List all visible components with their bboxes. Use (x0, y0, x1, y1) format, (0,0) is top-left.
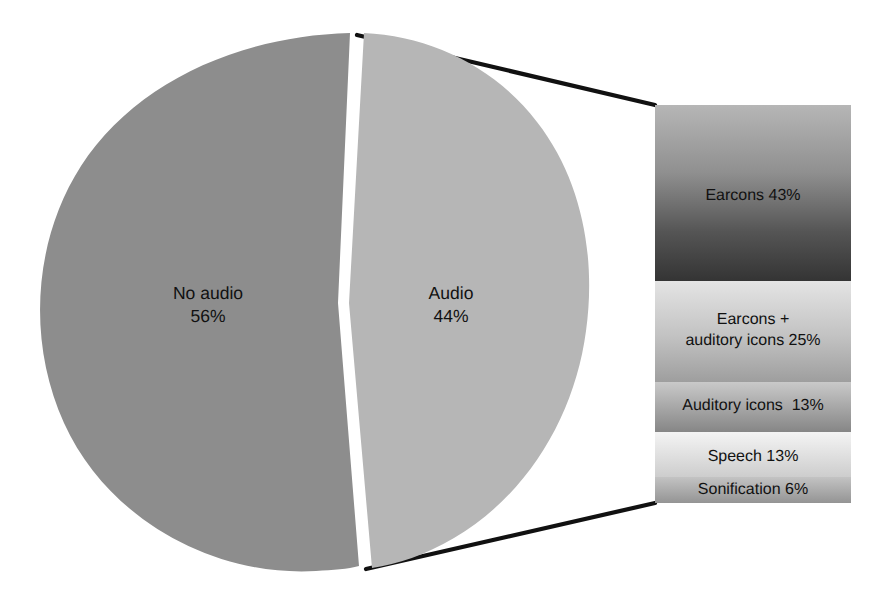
stacked-bar-canvas (0, 0, 885, 599)
bar-segment-speech[interactable] (655, 432, 851, 477)
pie-chart-figure: No audio 56% Audio 44% Earcons 43% Earco… (0, 0, 885, 599)
bar-segment-earcons-auditory-icons[interactable] (655, 281, 851, 382)
bar-segment-auditory-icons[interactable] (655, 382, 851, 432)
bar-segment-sonification[interactable] (655, 477, 851, 503)
bar-segment-earcons[interactable] (655, 105, 851, 281)
